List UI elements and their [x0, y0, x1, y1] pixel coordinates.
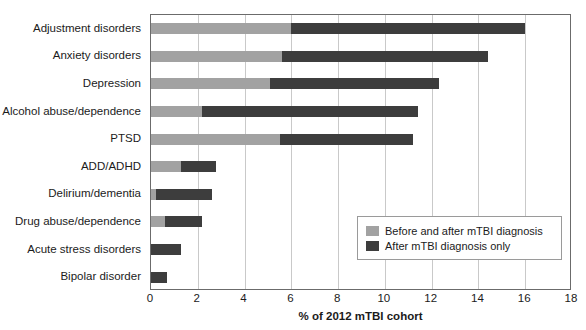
bar-row — [151, 98, 570, 126]
x-axis-tick-label: 0 — [147, 292, 153, 304]
x-axis-tick-label: 18 — [565, 292, 578, 304]
bar-segment-before-and-after — [151, 161, 181, 172]
legend-item: After mTBI diagnosis only — [366, 238, 553, 253]
y-axis-label: Acute stress disorders — [0, 243, 141, 255]
x-axis-tick-label: 8 — [334, 292, 340, 304]
bar-row — [151, 70, 570, 98]
bar-segment-after-only — [270, 78, 438, 89]
bar-track — [151, 51, 570, 62]
y-axis-label: Bipolar disorder — [0, 270, 141, 282]
bar-track — [151, 161, 570, 172]
y-axis-category-labels: Adjustment disordersAnxiety disordersDep… — [0, 14, 145, 290]
bar-segment-after-only — [156, 189, 212, 200]
y-axis-label: Depression — [0, 77, 141, 89]
bar-track — [151, 134, 570, 145]
bar-row — [151, 43, 570, 71]
legend: Before and after mTBI diagnosisAfter mTB… — [357, 216, 562, 260]
y-axis-label: ADD/ADHD — [0, 160, 141, 172]
bar-segment-before-and-after — [151, 23, 291, 34]
bar-row — [151, 263, 570, 291]
bar-row — [151, 153, 570, 181]
x-axis-tick-label: 6 — [287, 292, 293, 304]
bar-track — [151, 189, 570, 200]
bar-track — [151, 106, 570, 117]
legend-swatch-icon — [366, 241, 379, 251]
bar-row — [151, 15, 570, 43]
bar-segment-before-and-after — [151, 51, 282, 62]
y-axis-label: Delirium/dementia — [0, 187, 141, 199]
x-axis-tick-label: 14 — [471, 292, 484, 304]
bar-segment-after-only — [291, 23, 525, 34]
bar-segment-after-only — [280, 134, 413, 145]
x-axis-tick-label: 10 — [377, 292, 390, 304]
bar-row — [151, 181, 570, 209]
x-axis-tick-label: 4 — [240, 292, 246, 304]
legend-label: After mTBI diagnosis only — [385, 240, 510, 252]
bar-track — [151, 78, 570, 89]
x-axis-tick-label: 12 — [424, 292, 437, 304]
y-axis-label: Drug abuse/dependence — [0, 215, 141, 227]
x-axis-tick-labels: 024681012141618 — [150, 292, 571, 308]
bar-track — [151, 23, 570, 34]
x-axis-title: % of 2012 mTBI cohort — [150, 310, 571, 322]
bar-segment-after-only — [151, 244, 181, 255]
bar-segment-before-and-after — [151, 78, 270, 89]
bar-row — [151, 125, 570, 153]
x-axis-tick-label: 2 — [194, 292, 200, 304]
y-axis-label: PTSD — [0, 132, 141, 144]
x-axis-tick-label: 16 — [518, 292, 531, 304]
bar-segment-before-and-after — [151, 134, 280, 145]
bar-segment-after-only — [151, 272, 167, 283]
bar-segment-after-only — [282, 51, 488, 62]
y-axis-label: Anxiety disorders — [0, 49, 141, 61]
bar-segment-before-and-after — [151, 216, 165, 227]
bar-track — [151, 272, 570, 283]
y-axis-label: Alcohol abuse/dependence — [0, 105, 141, 117]
bar-segment-after-only — [165, 216, 202, 227]
bar-segment-after-only — [202, 106, 417, 117]
bar-segment-before-and-after — [151, 106, 202, 117]
legend-item: Before and after mTBI diagnosis — [366, 223, 553, 238]
y-axis-label: Adjustment disorders — [0, 22, 141, 34]
bar-segment-after-only — [181, 161, 216, 172]
legend-label: Before and after mTBI diagnosis — [385, 225, 543, 237]
legend-swatch-icon — [366, 226, 379, 236]
bar-chart: Adjustment disordersAnxiety disordersDep… — [0, 0, 586, 330]
